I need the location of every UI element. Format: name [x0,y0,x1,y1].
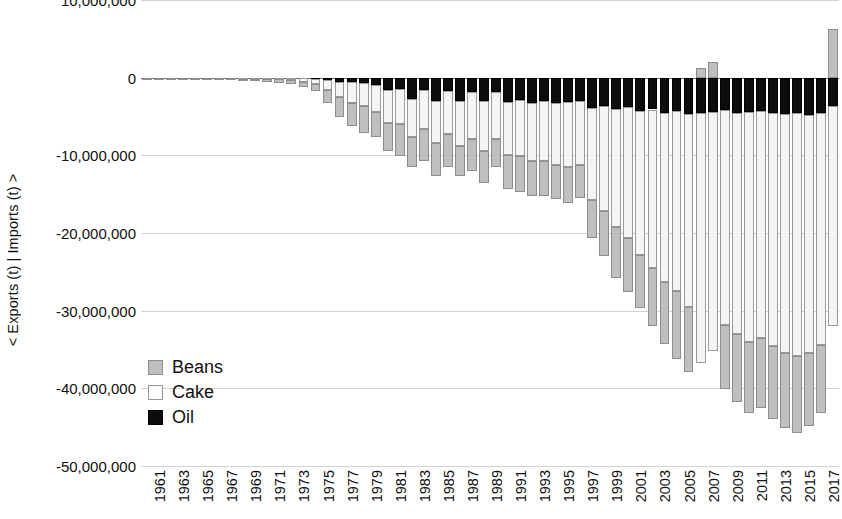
legend-swatch-oil-icon [148,410,163,425]
bar-segment-beans [575,165,585,198]
bar-segment-cake [756,111,766,338]
bar-segment-cake [443,91,453,134]
bar-segment-oil [395,78,405,90]
bar-segment-oil [515,78,525,101]
x-axis-tick-label: 2017 [826,470,842,502]
bar-segment-beans [395,124,405,156]
bar-segment-oil [575,78,585,101]
bar-segment-beans [623,238,633,292]
bar-column [684,0,694,466]
x-axis-tick-label: 2015 [802,470,818,502]
bar-segment-oil [792,78,802,113]
x-axis-tick-label: 1991 [513,470,529,502]
bar-segment-oil [660,78,670,113]
bar-segment-beans [551,165,561,198]
bar-segment-cake [407,99,417,136]
bar-segment-beans [660,282,670,344]
bar-segment-oil [816,78,826,114]
x-axis-tick-label: 1987 [465,470,481,502]
x-axis-tick-label: 1971 [272,470,288,502]
bar-column [491,0,501,466]
legend-item-beans[interactable]: Beans [148,358,223,376]
legend-item-oil[interactable]: Oil [148,408,223,426]
bar-segment-beans [166,78,176,80]
x-axis-tick-label: 1965 [200,470,216,502]
bar-segment-oil [611,78,621,109]
y-axis-tick-label: -40,000,000 [8,380,136,397]
bar-segment-cake [539,101,549,161]
bar-column [262,0,272,466]
bar-column [226,0,236,466]
x-axis-tick-label: 1997 [585,470,601,502]
bar-column [792,0,802,466]
x-axis-tick-label: 1961 [152,470,168,502]
y-axis-tick-label: 0 [8,69,136,86]
bar-segment-oil [744,78,754,112]
bar-segment-cake [696,113,706,363]
bar-column [431,0,441,466]
bar-segment-cake [672,111,682,291]
bar-segment-oil [551,78,561,104]
bar-segment-cake [359,83,369,106]
bar-segment-oil [720,78,730,111]
bar-segment-oil [407,78,417,100]
bar-segment-beans [708,62,718,78]
bar-column [611,0,621,466]
bar-segment-beans [756,338,766,408]
bar-segment-oil [768,78,778,113]
x-axis-tick-label: 1973 [296,470,312,502]
bar-segment-beans [792,356,802,432]
bar-segment-oil [756,78,766,111]
x-axis-tick-label: 1969 [248,470,264,502]
legend-item-cake[interactable]: Cake [148,383,223,401]
y-axis-tick-labels: 10,000,0000-10,000,000-20,000,000-30,000… [0,0,136,519]
x-axis-tick-label: 1999 [609,470,625,502]
bar-segment-beans [226,78,236,80]
bar-segment-oil [491,78,501,93]
bar-segment-beans [672,291,682,359]
x-axis-tick-label: 2001 [633,470,649,502]
bar-column [383,0,393,466]
bar-column [238,0,248,466]
bar-column [672,0,682,466]
bar-column [299,0,309,466]
bar-segment-cake [515,100,525,156]
bar-column [503,0,513,466]
bar-column [648,0,658,466]
bar-column [599,0,609,466]
bar-segment-cake [551,103,561,165]
bar-segment-beans [768,346,778,418]
bar-segment-beans [299,82,309,87]
bar-segment-beans [635,255,645,309]
bar-series-container [141,0,839,466]
bar-column [443,0,453,466]
bar-segment-beans [431,143,441,176]
bar-segment-beans [648,268,658,326]
bar-column [816,0,826,466]
bar-segment-cake [491,92,501,139]
bar-segment-cake [732,113,742,334]
x-axis-tick-label: 1967 [224,470,240,502]
bar-segment-beans [286,80,296,84]
bar-segment-cake [684,114,694,307]
bar-column [250,0,260,466]
bar-segment-oil [804,78,814,115]
bar-segment-cake [479,101,489,151]
bar-segment-cake [816,113,826,344]
bar-segment-beans [383,123,393,152]
x-axis-tick-label: 2005 [682,470,698,502]
x-axis-tick-label: 1963 [176,470,192,502]
bar-segment-beans [539,161,549,197]
bar-column [286,0,296,466]
bar-segment-oil [479,78,489,101]
bar-column [551,0,561,466]
bar-segment-beans [347,103,357,126]
bar-column [780,0,790,466]
bar-column [720,0,730,466]
bar-segment-oil [623,78,633,108]
bar-segment-beans [467,139,477,171]
bar-segment-beans [214,78,224,80]
bar-segment-cake [395,89,405,124]
bar-column [660,0,670,466]
